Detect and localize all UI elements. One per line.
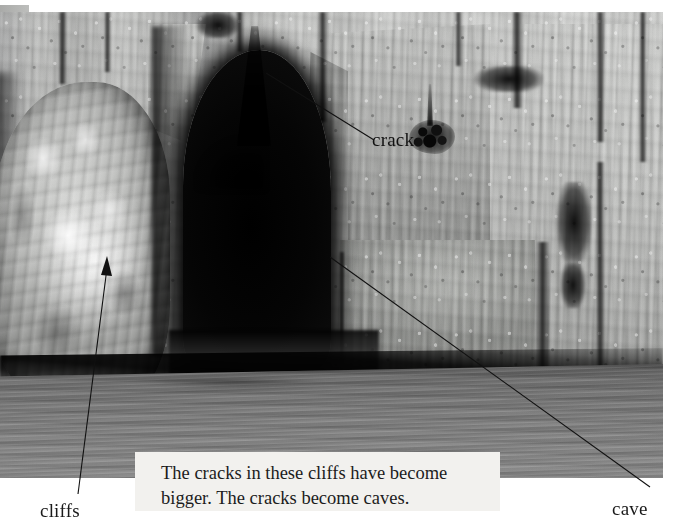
caption-line-2: bigger. The cracks become caves. [161, 486, 486, 511]
cave-entrance [155, 30, 355, 375]
caption-box: The cracks in these cliffs have become b… [135, 452, 500, 511]
rock-fissure-6 [512, 12, 523, 108]
rock-fissure-5 [455, 12, 462, 66]
figure-page: crack cliffs cave The cracks in these cl… [0, 0, 675, 528]
caption-line-1: The cracks in these cliffs have become [161, 461, 486, 486]
rock-recess-right-upper [556, 182, 592, 262]
crack-dark-blotch [409, 120, 455, 154]
rock-fissure-2 [104, 12, 111, 72]
rock-fissure-1 [58, 12, 67, 84]
rock-fissure-8 [639, 12, 647, 162]
rock-recess-right-lower [560, 262, 586, 308]
annotation-label-crack: crack [372, 129, 414, 151]
rock-fissure-9 [596, 162, 605, 372]
cave-soffit-shadow [175, 100, 265, 190]
annotation-label-cliffs: cliffs [40, 500, 80, 522]
cliff-photograph [0, 12, 663, 478]
rock-recess-overhang-left [474, 66, 544, 92]
annotation-label-cave: cave [612, 498, 648, 520]
rock-fissure-7 [596, 12, 605, 142]
